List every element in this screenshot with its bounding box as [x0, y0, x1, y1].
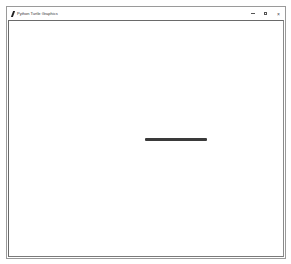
turtle-window: Python Turtle Graphics × — [6, 6, 286, 259]
maximize-icon — [264, 12, 268, 16]
minimize-button[interactable] — [246, 7, 259, 20]
feather-icon — [10, 11, 15, 17]
window-controls: × — [246, 7, 285, 20]
close-icon: × — [277, 11, 280, 17]
maximize-button[interactable] — [259, 7, 272, 20]
minimize-icon — [251, 13, 255, 14]
window-title: Python Turtle Graphics — [17, 11, 58, 16]
title-bar[interactable]: Python Turtle Graphics × — [7, 7, 285, 20]
drawn-line — [145, 138, 207, 141]
close-button[interactable]: × — [272, 7, 285, 20]
